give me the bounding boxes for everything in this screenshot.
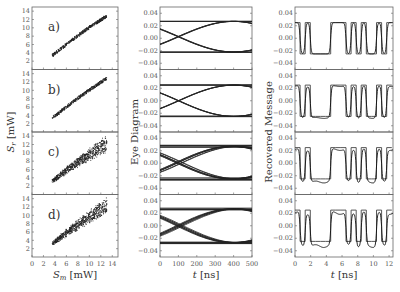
eye-panel-a: −0.04−0.020.000.020.04 xyxy=(138,7,252,70)
y-tick-label: 0.04 xyxy=(144,134,158,142)
x-tick-label: 12 xyxy=(97,260,105,268)
x-tick-label: 14 xyxy=(108,260,116,268)
y-tick-label: 0.02 xyxy=(144,84,158,92)
scatter-column: 2468101214a)2468101214b)2468101214c)2468… xyxy=(22,7,118,268)
y-tick-label: 0.04 xyxy=(279,9,293,17)
x-tick-label: 6 xyxy=(64,260,68,268)
scatter-panel-a: 2468101214a) xyxy=(22,7,118,70)
eye-trace-up xyxy=(160,21,252,44)
message-panel-a: −0.04−0.020.000.020.04 xyxy=(273,7,393,70)
plot-frame xyxy=(295,70,393,133)
message-panel-b: −0.04−0.020.000.020.04 xyxy=(273,70,393,133)
plot-frame xyxy=(160,70,252,133)
recovered-message-column: −0.04−0.020.000.020.04−0.04−0.020.000.02… xyxy=(273,7,393,268)
y-tick-label: 0.04 xyxy=(279,197,293,205)
eye-trace-up xyxy=(160,21,252,44)
plot-frame xyxy=(295,7,393,70)
y-tick-label: 8 xyxy=(26,157,30,165)
mid-x-axis-label: t [ns] xyxy=(193,269,220,280)
y-tick-label: 8 xyxy=(26,32,30,40)
y-tick-label: 14 xyxy=(22,70,30,78)
y-tick-label: 6 xyxy=(26,103,30,111)
recovered-message-trace xyxy=(295,212,393,248)
y-tick-label: 0.02 xyxy=(144,147,158,155)
y-tick-label: 0.04 xyxy=(144,197,158,205)
y-tick-label: 0.00 xyxy=(279,97,293,105)
x-tick-label: 12 xyxy=(385,260,393,268)
eye-trace-up xyxy=(160,85,252,108)
x-tick-label: 0 xyxy=(158,260,162,268)
panel-label: c) xyxy=(48,145,59,159)
y-tick-label: 0.00 xyxy=(144,222,158,230)
right-x-axis-label: t [ns] xyxy=(331,269,358,280)
x-tick-label: 4 xyxy=(324,260,328,268)
y-tick-label: −0.04 xyxy=(273,184,293,192)
eye-trace-down xyxy=(160,29,252,52)
y-tick-label: −0.04 xyxy=(273,122,293,130)
y-tick-label: 14 xyxy=(22,7,30,15)
y-tick-label: 6 xyxy=(26,228,30,236)
y-tick-label: 2 xyxy=(26,245,30,253)
eye-panel-c: −0.04−0.020.000.020.04 xyxy=(138,132,252,195)
message-panel-c: −0.04−0.020.000.020.04 xyxy=(273,132,393,195)
eye-trace-up xyxy=(160,21,252,44)
x-tick-label: 300 xyxy=(209,260,221,268)
x-tick-label: 0 xyxy=(30,260,34,268)
y-tick-label: 8 xyxy=(26,95,30,103)
y-tick-label: 2 xyxy=(26,182,30,190)
mid-y-axis-label: Eye Diagram xyxy=(129,99,140,165)
eye-trace-down xyxy=(160,29,252,52)
original-message-trace xyxy=(295,210,392,241)
eye-trace-up xyxy=(160,85,252,109)
y-tick-label: 0.00 xyxy=(279,34,293,42)
y-tick-label: −0.04 xyxy=(273,247,293,255)
y-tick-label: 8 xyxy=(26,220,30,228)
eye-trace-down xyxy=(160,93,252,116)
y-tick-label: 6 xyxy=(26,166,30,174)
y-tick-label: 0.02 xyxy=(144,209,158,217)
scatter-panel-b: 2468101214b) xyxy=(22,70,118,133)
recovered-message-trace xyxy=(295,149,393,183)
eye-trace-down xyxy=(160,29,252,52)
x-tick-label: 2 xyxy=(309,260,313,268)
y-tick-label: −0.04 xyxy=(138,59,158,67)
scatter-panel-d: 246810121402468101214d) xyxy=(22,195,118,269)
y-tick-label: 0.02 xyxy=(279,22,293,30)
x-tick-label: 2 xyxy=(41,260,45,268)
eye-trace-down xyxy=(160,93,252,117)
x-tick-label: 400 xyxy=(227,260,239,268)
recovered-message-trace xyxy=(295,23,393,54)
y-tick-label: 10 xyxy=(22,149,30,157)
y-tick-label: 12 xyxy=(22,203,30,211)
x-tick-label: 200 xyxy=(191,260,203,268)
eye-panel-b: −0.04−0.020.000.020.04 xyxy=(138,70,252,133)
y-tick-label: −0.02 xyxy=(138,47,158,55)
left-y-axis-label: Sr [mW] xyxy=(5,111,18,152)
y-tick-label: 0.02 xyxy=(144,22,158,30)
x-tick-label: 100 xyxy=(172,260,184,268)
x-tick-label: 0 xyxy=(293,260,297,268)
figure: 2468101214a)2468101214b)2468101214c)2468… xyxy=(0,0,400,292)
y-tick-label: 0.02 xyxy=(279,84,293,92)
x-tick-label: 6 xyxy=(340,260,344,268)
y-tick-label: 10 xyxy=(22,212,30,220)
y-tick-label: −0.02 xyxy=(273,172,293,180)
panel-label: a) xyxy=(48,20,60,34)
y-tick-label: 10 xyxy=(22,87,30,95)
y-tick-label: 0.00 xyxy=(144,159,158,167)
y-tick-label: 2 xyxy=(26,57,30,65)
scatter-panel-c: 2468101214c) xyxy=(22,132,118,195)
x-tick-label: 10 xyxy=(85,260,93,268)
y-tick-label: 4 xyxy=(26,237,30,245)
y-tick-label: 12 xyxy=(22,16,30,24)
message-panel-d: −0.04−0.020.000.020.04024681012 xyxy=(273,195,393,269)
y-tick-label: 4 xyxy=(26,174,30,182)
y-tick-label: 10 xyxy=(22,24,30,32)
y-tick-label: 12 xyxy=(22,141,30,149)
y-tick-label: 0.02 xyxy=(279,147,293,155)
y-tick-label: 0.04 xyxy=(144,9,158,17)
y-tick-label: 0.00 xyxy=(279,159,293,167)
y-tick-label: 0.00 xyxy=(144,97,158,105)
y-tick-label: 2 xyxy=(26,120,30,128)
eye-trace-up xyxy=(160,85,252,109)
